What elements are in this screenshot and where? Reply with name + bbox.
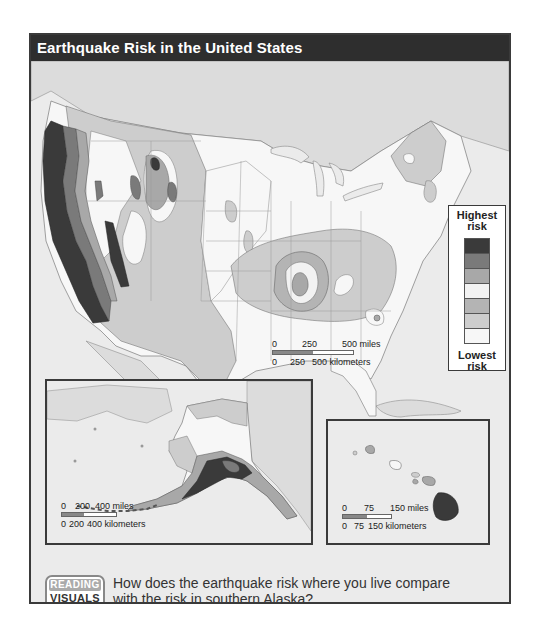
reading-visuals-prompt: READING VISUALS How does the earthquake … — [45, 575, 453, 604]
legend-title: Highest risk — [449, 210, 505, 232]
legend-swatch-level-6 — [465, 254, 489, 269]
legend-swatch-level-2 — [465, 314, 489, 329]
reading-visuals-badge: READING VISUALS — [45, 575, 105, 604]
alaska-scale-bar: 0200400 miles 0200400 kilometers — [61, 501, 146, 529]
scale-km-labels: 0250500 kilometers — [272, 357, 392, 367]
map-title: Earthquake Risk in the United States — [31, 35, 509, 61]
legend-swatch-level-4 — [465, 284, 489, 299]
alaska-inset: 0200400 miles 0200400 kilometers — [45, 379, 313, 545]
legend-swatches — [464, 238, 490, 344]
hawaii-inset: 075150 miles 075150 kilometers — [326, 419, 490, 545]
scale-miles-labels: 0250500 miles — [272, 339, 392, 349]
legend-swatch-level-1 — [465, 329, 489, 343]
legend-swatch-level-5 — [465, 269, 489, 284]
risk-legend: Highest risk Lowest risk — [448, 205, 506, 371]
legend-swatch-level-7 — [465, 239, 489, 254]
map-frame: Earthquake Risk in the United States — [29, 33, 511, 604]
main-scale-bar: 0250500 miles 0250500 kilometers — [272, 339, 392, 367]
legend-swatch-level-3 — [465, 299, 489, 314]
scale-bar-graphic — [272, 350, 354, 355]
reading-visuals-question: How does the earthquake risk where you l… — [113, 575, 453, 604]
hawaii-scale-bar: 075150 miles 075150 kilometers — [342, 503, 429, 531]
us-main-map: Highest risk Lowest risk 0250500 miles — [31, 61, 509, 602]
legend-bottom-label: Lowest risk — [449, 350, 505, 372]
